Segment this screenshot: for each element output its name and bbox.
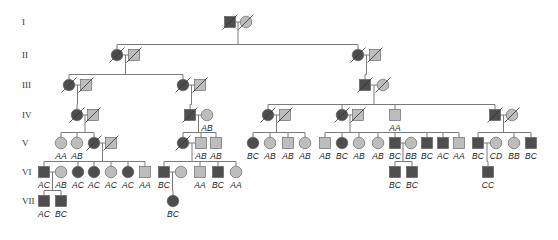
genotype-label: AA <box>138 180 151 190</box>
genotype-label: BB <box>508 151 520 161</box>
genotype-label: AB <box>263 151 276 161</box>
circle-icon <box>88 166 100 178</box>
male-symbol: AB <box>281 138 294 161</box>
circle-icon <box>55 166 67 178</box>
circle-icon <box>508 137 520 149</box>
square-icon <box>526 138 537 149</box>
genotype-label: BC <box>389 180 402 190</box>
generation-label: VI <box>22 167 32 177</box>
male-symbol: BC <box>212 167 225 190</box>
female-symbol: AC <box>87 166 101 189</box>
female-symbol <box>176 78 191 93</box>
generation-label: V <box>22 138 29 148</box>
female-symbol: BB <box>508 137 520 160</box>
male-symbol <box>127 48 142 63</box>
generation-label: VII <box>22 196 35 206</box>
female-symbol: AB <box>298 137 311 160</box>
circle-icon <box>264 137 276 149</box>
square-icon <box>159 167 170 178</box>
circle-icon <box>230 166 242 178</box>
male-symbol <box>368 48 383 63</box>
genotype-label: BC <box>55 209 68 219</box>
genotype-label: BC <box>406 180 419 190</box>
genotype-label: AA <box>452 151 465 161</box>
genotype-label: BC <box>525 151 538 161</box>
female-symbol: CD <box>490 137 502 160</box>
male-symbol: BC <box>472 138 485 161</box>
female-symbol: BC <box>247 137 260 160</box>
square-icon <box>438 138 449 149</box>
male-symbol: BC <box>525 138 538 161</box>
circle-icon <box>336 137 348 149</box>
square-icon <box>407 167 418 178</box>
female-symbol: BB <box>405 137 417 160</box>
genotype-label: AC <box>104 180 118 190</box>
genotype-label: AB <box>209 151 222 161</box>
female-symbol <box>87 136 102 151</box>
circle-icon <box>353 137 365 149</box>
genotype-label: BC <box>158 180 171 190</box>
genotype-label: BC <box>421 151 434 161</box>
female-symbol: AA <box>229 166 242 189</box>
circle-icon <box>490 137 502 149</box>
male-symbol <box>351 108 366 123</box>
circle-icon <box>405 137 417 149</box>
square-icon <box>473 138 484 149</box>
genotype-label: CC <box>482 180 495 190</box>
female-symbol <box>505 108 520 123</box>
female-symbol <box>351 48 366 63</box>
square-icon <box>39 167 50 178</box>
genotype-label: BB <box>405 151 417 161</box>
square-icon <box>390 138 401 149</box>
circle-icon <box>167 195 179 207</box>
female-symbol: AC <box>71 166 85 189</box>
genotype-label: AB <box>200 123 213 133</box>
square-icon <box>213 167 224 178</box>
generation-label: IV <box>22 110 32 120</box>
male-symbol: BC <box>389 138 402 161</box>
pedigree-lines <box>44 22 531 196</box>
female-symbol <box>175 166 187 178</box>
male-symbol: BC <box>55 196 68 219</box>
circle-icon <box>247 137 259 149</box>
circle-icon <box>299 137 311 149</box>
female-symbol: AC <box>104 166 118 189</box>
genotype-label: AA <box>229 180 242 190</box>
male-symbol <box>193 78 208 93</box>
female-symbol: AB <box>352 137 365 160</box>
male-symbol: AB <box>209 138 222 161</box>
genotype-label: BC <box>247 151 260 161</box>
female-symbol <box>376 78 391 93</box>
female-symbol: AB <box>200 109 213 132</box>
female-symbol: BC <box>336 137 349 160</box>
circle-icon <box>55 137 67 149</box>
square-icon <box>483 167 494 178</box>
male-symbol: BC <box>421 138 434 161</box>
male-symbol <box>86 108 101 123</box>
genotype-label: AA <box>54 151 67 161</box>
square-icon <box>196 138 207 149</box>
genotype-label: AB <box>371 151 384 161</box>
male-symbol <box>358 78 373 93</box>
male-symbol <box>278 108 293 123</box>
square-icon <box>422 138 433 149</box>
square-icon <box>283 138 294 149</box>
square-icon <box>454 138 465 149</box>
circle-icon <box>201 109 213 121</box>
male-symbol <box>104 136 119 151</box>
genotype-label: AC <box>71 180 85 190</box>
genotype-label: AB <box>352 151 365 161</box>
male-symbol: AA <box>138 167 151 190</box>
female-symbol <box>335 108 350 123</box>
male-symbol: BC <box>389 167 402 190</box>
genotype-label: AC <box>37 180 51 190</box>
square-icon <box>140 167 151 178</box>
male-symbol <box>79 78 94 93</box>
square-icon <box>195 167 206 178</box>
male-symbol <box>183 108 198 123</box>
genotype-label: AB <box>54 180 67 190</box>
female-symbol <box>70 108 85 123</box>
square-icon <box>390 110 401 121</box>
female-symbol: BC <box>167 195 180 218</box>
male-symbol <box>488 108 503 123</box>
